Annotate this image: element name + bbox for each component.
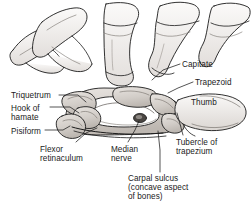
label-triquetrum: Triquetrum [11, 91, 51, 100]
leader-line-trapezoid [168, 82, 193, 93]
label-trapezoid: Trapezoid [195, 78, 232, 87]
label-median-nerve: Median nerve [111, 145, 138, 163]
metacarpal-4 [32, 8, 92, 72]
label-tubercle-of-trapezium: Tubercle of trapezium [176, 138, 217, 156]
label-hook-of-hamate: Hook of hamate [11, 104, 40, 122]
label-flexor-retinaculum: Flexor retinaculum [40, 145, 83, 163]
label-capitate: Capitate [182, 60, 213, 69]
label-pisiform: Pisiform [11, 127, 41, 136]
leader-line-carpal-sulcus [158, 131, 160, 172]
median-nerve-oval [134, 113, 147, 122]
label-carpal-sulcus: Carpal sulcus (concave aspect of bones) [128, 174, 188, 202]
anatomy-figure: TriquetrumHook of hamatePisiformFlexor r… [0, 0, 251, 210]
label-thumb: Thumb [191, 98, 217, 107]
pisiform-bone [56, 114, 85, 138]
metacarpal-3 [104, 3, 139, 86]
metacarpal-1-thumb [199, 3, 250, 67]
